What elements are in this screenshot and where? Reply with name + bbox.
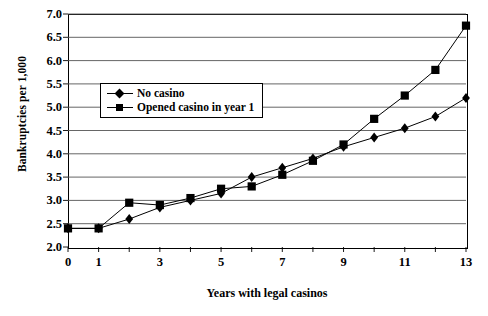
y-axis-tick-label: 5.5 <box>28 78 62 90</box>
y-axis-tick-label: 2.0 <box>28 241 62 253</box>
diamond-marker-icon <box>125 214 133 224</box>
x-axis-tick-label: 7 <box>270 255 294 270</box>
x-axis-title: Years with legal casinos <box>68 286 466 301</box>
data-series-layer <box>64 22 470 234</box>
square-marker-icon <box>125 199 133 207</box>
square-marker-icon <box>401 91 409 99</box>
x-axis-tick-label: 3 <box>148 255 172 270</box>
x-axis-tick-label: 1 <box>87 255 111 270</box>
diamond-marker-icon <box>462 93 470 103</box>
square-marker-icon <box>370 115 378 123</box>
x-axis-tick-label: 11 <box>393 255 417 270</box>
square-marker-icon <box>462 22 470 30</box>
square-marker-icon <box>64 224 72 232</box>
square-marker-icon <box>107 101 133 113</box>
diamond-marker-icon <box>107 87 133 99</box>
diamond-marker-icon <box>248 172 256 182</box>
square-marker-icon <box>278 171 286 179</box>
legend-item-opened-casino: Opened casino in year 1 <box>107 100 254 114</box>
square-marker-icon <box>248 182 256 190</box>
bankruptcy-line-chart: Bankruptcies per 1,000 2.02.53.03.54.04.… <box>0 0 488 316</box>
y-axis-tick-label: 2.5 <box>28 218 62 230</box>
square-marker-icon <box>339 140 347 148</box>
x-axis-tick-label: 13 <box>454 255 478 270</box>
square-marker-icon <box>309 157 317 165</box>
square-marker-icon <box>156 201 164 209</box>
y-axis-tick-label: 4.5 <box>28 125 62 137</box>
y-axis-tick-label: 5.0 <box>28 101 62 113</box>
square-marker-icon <box>431 66 439 74</box>
y-axis-tick-label: 4.0 <box>28 148 62 160</box>
diamond-marker-icon <box>370 132 378 142</box>
legend-item-label: Opened casino in year 1 <box>137 101 254 113</box>
legend-item-label: No casino <box>137 87 185 99</box>
x-axis-tick-label: 5 <box>209 255 233 270</box>
square-marker-icon <box>217 185 225 193</box>
diamond-marker-icon <box>401 123 409 133</box>
y-axis-tick-label: 7.0 <box>28 8 62 20</box>
x-axis-ticks <box>63 14 466 252</box>
y-axis-tick-label: 3.0 <box>28 194 62 206</box>
x-axis-tick-label: 9 <box>332 255 356 270</box>
square-marker-icon <box>95 224 103 232</box>
y-axis-tick-label: 3.5 <box>28 171 62 183</box>
legend-item-no-casino: No casino <box>107 86 254 100</box>
chart-legend: No casino Opened casino in year 1 <box>100 83 263 118</box>
x-axis-tick-label: 0 <box>56 255 80 270</box>
gridlines <box>68 14 466 224</box>
diamond-marker-icon <box>431 112 439 122</box>
square-marker-icon <box>186 194 194 202</box>
y-axis-tick-label: 6.5 <box>28 31 62 43</box>
y-axis-tick-label: 6.0 <box>28 55 62 67</box>
